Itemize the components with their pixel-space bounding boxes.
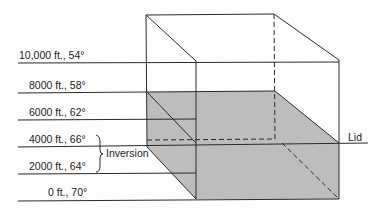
altitude-line-0 [18, 199, 339, 201]
diagram-svg: 10,000 ft., 54° 8000 ft., 58° 6000 ft., … [0, 0, 385, 213]
lid-label: Lid [348, 131, 362, 143]
altitude-line-2000 [18, 173, 196, 174]
altitude-line-10000 [18, 62, 339, 63]
altitude-label-4000: 4000 ft., 66° [29, 133, 86, 145]
altitude-label-2000: 2000 ft., 64° [29, 160, 86, 172]
altitude-label-8000: 8000 ft., 58° [29, 79, 86, 91]
inversion-label: Inversion [106, 147, 149, 159]
altitude-label-10000: 10,000 ft., 54° [19, 49, 85, 61]
inversion-diagram: 10,000 ft., 54° 8000 ft., 58° 6000 ft., … [0, 0, 385, 213]
altitude-label-0: 0 ft., 70° [48, 186, 87, 198]
altitude-label-6000: 6000 ft., 62° [29, 106, 86, 118]
inversion-brace [96, 135, 103, 172]
